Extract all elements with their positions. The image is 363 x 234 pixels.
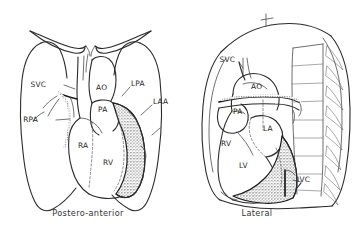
labels-lateral: SVC AO PA LA RV LV IVC	[219, 55, 310, 184]
great-vessels-pa	[33, 54, 119, 149]
label-ao-lateral: AO	[251, 82, 262, 91]
rib-shadows-lateral	[324, 46, 343, 205]
labels-pa: SVC AO LPA PA LAA RPA RA RV	[23, 79, 168, 167]
label-ao-pa: AO	[96, 83, 107, 92]
label-ivc-lateral: IVC	[297, 175, 310, 184]
label-pa-pa: PA	[98, 105, 107, 114]
clavicle-outlines-pa	[30, 31, 151, 56]
stippled-lv-border-pa	[113, 103, 146, 198]
caption-lateral: Lateral	[242, 208, 273, 218]
caption-postero-anterior: Postero-anterior	[52, 208, 124, 218]
label-lpa-pa: LPA	[131, 79, 145, 88]
label-svc-lateral: SVC	[219, 55, 235, 64]
great-vessels-lateral	[218, 58, 302, 133]
panel-postero-anterior: SVC AO LPA PA LAA RPA RA RV Postero-ante…	[0, 0, 181, 234]
label-ra-pa: RA	[78, 141, 88, 150]
label-rv-pa: RV	[103, 158, 113, 167]
panel-lateral: SVC AO PA LA RV LV IVC Lateral	[181, 0, 363, 234]
cardiac-radiograph-figure: SVC AO LPA PA LAA RPA RA RV Postero-ante…	[0, 0, 363, 234]
label-laa-pa: LAA	[153, 97, 168, 106]
label-svc-pa: SVC	[30, 80, 46, 89]
label-la-lateral: LA	[263, 124, 273, 133]
label-rpa-pa: RPA	[23, 115, 38, 124]
label-pa-lateral: PA	[233, 107, 242, 116]
label-lv-lateral: LV	[239, 161, 248, 170]
label-rv-lateral: RV	[221, 139, 231, 148]
